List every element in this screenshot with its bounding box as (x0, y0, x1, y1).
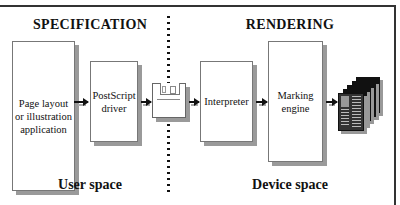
floppy-slot (170, 86, 176, 94)
frame-top-border (0, 5, 396, 7)
page-text-column (341, 109, 349, 127)
heading-rendering: RENDERING (235, 17, 345, 33)
frame-right-border (394, 5, 396, 205)
node-driver-line-2: driver (92, 102, 135, 115)
floppy-disk-icon (152, 83, 186, 118)
floppy-label (157, 99, 180, 116)
arrow-interpreter-to-engine (256, 101, 267, 103)
arrow-disk-to-interpreter (189, 101, 199, 103)
page-text-column (352, 96, 361, 127)
footer-device-space: Device space (230, 177, 350, 193)
page-image-block (341, 96, 349, 107)
node-application-line-2: or illustration (15, 110, 72, 123)
node-interpreter: Interpreter (200, 61, 253, 142)
arrow-engine-to-output (326, 101, 337, 103)
page-front (338, 93, 364, 131)
footer-user-space: User space (40, 177, 140, 193)
node-engine-line-1: Marking (277, 89, 313, 102)
arrow-driver-to-disk (141, 101, 151, 103)
arrow-application-to-driver (74, 101, 88, 103)
node-application-line-3: application (15, 123, 72, 136)
node-driver: PostScript driver (90, 61, 138, 142)
node-interpreter-line-1: Interpreter (204, 95, 248, 108)
node-engine-line-2: engine (277, 102, 313, 115)
node-application: Page layout or illustration application (12, 41, 75, 191)
heading-specification: SPECIFICATION (30, 17, 150, 33)
node-application-line-1: Page layout (15, 97, 72, 110)
floppy-notch (162, 86, 166, 93)
node-driver-line-1: PostScript (92, 89, 135, 102)
node-marking-engine: Marking engine (268, 41, 323, 162)
